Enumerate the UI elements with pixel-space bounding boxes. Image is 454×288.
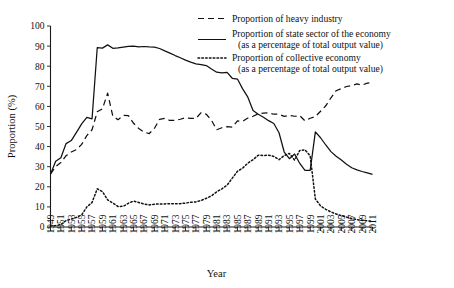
x-tick-label: 1983 — [222, 214, 232, 233]
x-tick-label: 1985 — [233, 214, 243, 233]
chart-figure: 0102030405060708090100 19491951195319551… — [0, 0, 454, 288]
y-axis-title: Proportion (%) — [6, 94, 18, 158]
x-tick-label: 1977 — [191, 214, 201, 233]
legend-label-1: Proportion of state sector of the econom… — [232, 28, 391, 39]
x-tick-label: 1989 — [254, 214, 264, 233]
x-tick-label: 1981 — [212, 214, 222, 233]
legend-label-0: Proportion of heavy industry — [232, 13, 343, 24]
x-axis-ticks: 1949195119531955195719591961196319651967… — [46, 214, 378, 233]
y-tick-label: 100 — [30, 21, 45, 31]
x-tick-label: 1993 — [274, 214, 284, 233]
x-tick-label: 2003 — [326, 214, 336, 233]
chart-legend: Proportion of heavy industryProportion o… — [198, 13, 391, 76]
x-tick-label: 1995 — [285, 214, 295, 233]
x-tick-label: 1979 — [202, 214, 212, 233]
x-tick-label: 2009 — [358, 214, 368, 233]
y-tick-label: 20 — [35, 182, 45, 192]
x-tick-label: 1999 — [306, 214, 316, 233]
y-tick-label: 80 — [35, 62, 45, 72]
x-tick-label: 1971 — [160, 214, 170, 233]
line-chart: 0102030405060708090100 19491951195319551… — [0, 0, 454, 288]
y-tick-label: 0 — [40, 222, 45, 232]
x-tick-label: 1955 — [77, 214, 87, 233]
y-tick-label: 50 — [35, 122, 45, 132]
y-tick-label: 90 — [35, 42, 45, 52]
y-tick-label: 30 — [35, 162, 45, 172]
x-tick-label: 1973 — [171, 214, 181, 233]
y-tick-label: 60 — [35, 102, 45, 112]
x-tick-label: 1969 — [150, 214, 160, 233]
x-tick-label: 1991 — [264, 214, 274, 233]
series-path-0 — [51, 83, 373, 174]
x-tick-label: 1965 — [129, 214, 139, 233]
x-axis-title: Year — [207, 268, 227, 279]
x-tick-label: 1987 — [243, 214, 253, 233]
y-tick-label: 70 — [35, 82, 45, 92]
x-tick-label: 1961 — [108, 214, 118, 233]
y-axis-ticks: 0102030405060708090100 — [30, 21, 50, 232]
x-tick-label: 1959 — [98, 214, 108, 233]
legend-sublabel-2: (as a percentage of total output value) — [238, 63, 383, 75]
x-tick-label: 1967 — [139, 214, 149, 233]
x-tick-label: 2005 — [337, 214, 347, 233]
x-tick-label: 2001 — [316, 214, 326, 233]
legend-label-2: Proportion of collective economy — [232, 52, 361, 63]
x-tick-label: 1963 — [119, 214, 129, 233]
x-tick-label: 1957 — [87, 214, 97, 233]
x-tick-label: 1997 — [295, 214, 305, 233]
y-tick-label: 40 — [35, 142, 45, 152]
y-tick-label: 10 — [35, 202, 45, 212]
x-tick-label: 2011 — [368, 215, 378, 234]
legend-sublabel-1: (as a percentage of total output value) — [238, 39, 383, 51]
x-tick-label: 1975 — [181, 214, 191, 233]
